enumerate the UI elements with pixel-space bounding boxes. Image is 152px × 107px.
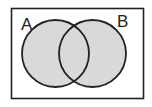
venn-diagram: A B — [0, 0, 152, 107]
shaded-union — [22, 20, 126, 87]
set-b-label: B — [117, 12, 128, 31]
set-a-label: A — [21, 15, 33, 34]
